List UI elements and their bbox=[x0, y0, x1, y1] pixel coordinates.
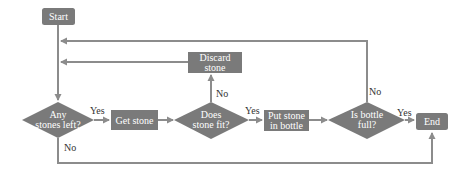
edge-label-full-yes: Yes bbox=[397, 107, 412, 118]
node-any-stones-line2: stones left? bbox=[35, 119, 81, 130]
node-put-stone-in-bottle: Put stone in bottle bbox=[264, 110, 309, 131]
node-end-label: End bbox=[424, 116, 440, 127]
node-get-stone: Get stone bbox=[111, 110, 158, 130]
node-discard-line2: stone bbox=[204, 62, 226, 73]
node-get-stone-label: Get stone bbox=[115, 115, 154, 126]
node-start: Start bbox=[42, 8, 75, 25]
flowchart-canvas: Start Discard stone Any stones left? Get… bbox=[0, 0, 465, 175]
edge-label-fit-yes: Yes bbox=[245, 105, 260, 116]
node-put-stone-line2: in bottle bbox=[270, 120, 304, 131]
node-does-fit-line2: stone fit? bbox=[193, 119, 230, 130]
node-is-bottle-full: Is bottle full? bbox=[328, 102, 405, 139]
edge-label-fit-no: No bbox=[216, 88, 228, 99]
node-discard-stone: Discard stone bbox=[188, 52, 242, 73]
node-any-stones-left: Any stones left? bbox=[22, 102, 94, 138]
node-is-full-line2: full? bbox=[358, 119, 377, 130]
node-does-stone-fit: Does stone fit? bbox=[174, 102, 249, 139]
edge-label-any-no: No bbox=[64, 142, 76, 153]
edge-label-full-no: No bbox=[369, 86, 381, 97]
edge-any-no-to-end bbox=[58, 133, 432, 163]
node-end: End bbox=[416, 113, 448, 130]
edge-label-any-yes: Yes bbox=[90, 105, 105, 116]
node-start-label: Start bbox=[49, 11, 68, 22]
